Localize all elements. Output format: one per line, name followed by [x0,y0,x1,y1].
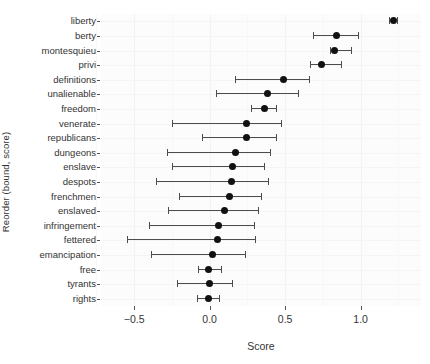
y-tick-mark [97,65,100,66]
error-bar-cap-high [309,76,310,83]
data-point[interactable] [229,163,236,170]
y-tick-mark [97,284,100,285]
y-tick-label-fettered: fettered [0,234,96,246]
data-row[interactable] [101,190,421,204]
data-row[interactable] [101,58,421,72]
y-tick-label-rights: rights [0,293,96,305]
data-point[interactable] [215,222,222,229]
data-point[interactable] [243,134,250,141]
error-bar [151,254,245,255]
error-bar-cap-high [270,149,271,156]
x-tick-mark [285,306,286,310]
y-tick-mark [97,21,100,22]
y-tick-label-tyrants: tyrants [0,278,96,290]
y-tick-mark [97,226,100,227]
y-tick-label-unalienable: unalienable [0,88,96,100]
data-row[interactable] [101,233,421,247]
data-point[interactable] [318,61,325,68]
y-tick-mark [97,197,100,198]
data-point[interactable] [221,207,228,214]
data-row[interactable] [101,160,421,174]
error-bar-cap-high [219,295,220,302]
error-bar [235,79,309,80]
data-row[interactable] [101,248,421,262]
y-tick-label-enslaved: enslaved [0,205,96,217]
data-row[interactable] [101,44,421,58]
data-row[interactable] [101,277,421,291]
data-row[interactable] [101,102,421,116]
data-point[interactable] [232,149,239,156]
error-bar-cap-low [251,105,252,112]
y-tick-mark [97,109,100,110]
error-bar-cap-low [313,32,314,39]
error-bar-cap-low [310,61,311,68]
data-point[interactable] [205,295,212,302]
x-tick-mark [210,306,211,310]
data-point[interactable] [226,193,233,200]
error-bar-cap-low [172,120,173,127]
error-bar-cap-low [198,266,199,273]
error-bar [177,283,231,284]
data-point[interactable] [280,76,287,83]
y-tick-label-liberty: liberty [0,15,96,27]
error-bar-cap-low [168,207,169,214]
data-point[interactable] [206,280,213,287]
y-tick-mark [97,138,100,139]
error-bar-cap-low [197,295,198,302]
y-tick-label-berty: berty [0,30,96,42]
error-bar-cap-high [232,280,233,287]
error-bar-cap-high [255,236,256,243]
x-tick-label: −0.5 [104,313,164,325]
data-point[interactable] [331,47,338,54]
data-row[interactable] [101,263,421,277]
data-point[interactable] [228,178,235,185]
y-tick-mark [97,211,100,212]
data-row[interactable] [101,146,421,160]
data-row[interactable] [101,117,421,131]
data-point[interactable] [264,90,271,97]
data-row[interactable] [101,175,421,189]
y-tick-label-venerate: venerate [0,118,96,130]
error-bar [179,196,261,197]
data-row[interactable] [101,14,421,28]
y-tick-label-definitions: definitions [0,74,96,86]
x-axis-title: Score [101,340,421,352]
error-bar [168,210,259,211]
y-tick-mark [97,270,100,271]
data-point[interactable] [214,236,221,243]
error-bar-cap-high [276,105,277,112]
error-bar [172,166,264,167]
y-tick-label-republicans: republicans [0,132,96,144]
error-bar-cap-low [156,178,157,185]
y-tick-label-freedom: freedom [0,103,96,115]
error-bar-cap-low [235,76,236,83]
y-tick-label-dungeons: dungeons [0,147,96,159]
data-point[interactable] [390,17,397,24]
data-point[interactable] [243,120,250,127]
error-bar-cap-low [149,222,150,229]
x-tick-mark [361,306,362,310]
error-bar-cap-low [216,90,217,97]
error-bar-cap-high [351,47,352,54]
data-point[interactable] [205,266,212,273]
y-tick-label-montesquieu: montesquieu [0,45,96,57]
error-bar-cap-high [341,61,342,68]
y-tick-mark [97,94,100,95]
data-row[interactable] [101,29,421,43]
data-row[interactable] [101,219,421,233]
data-row[interactable] [101,87,421,101]
data-row[interactable] [101,292,421,306]
data-row[interactable] [101,204,421,218]
data-point[interactable] [209,251,216,258]
data-row[interactable] [101,73,421,87]
data-row[interactable] [101,131,421,145]
data-point[interactable] [333,32,340,39]
data-point[interactable] [261,105,268,112]
error-bar-cap-low [179,193,180,200]
y-tick-mark [97,182,100,183]
x-tick-mark [134,306,135,310]
y-tick-mark [97,299,100,300]
y-tick-mark [97,240,100,241]
error-bar [310,64,340,65]
error-bar-cap-high [281,120,282,127]
